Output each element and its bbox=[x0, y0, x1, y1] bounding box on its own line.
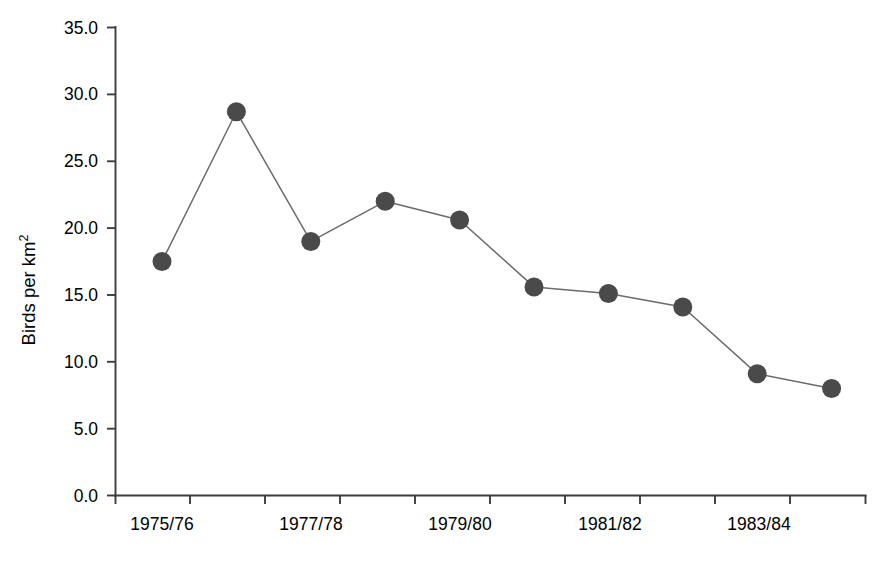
y-tick-label: 30.0 bbox=[64, 84, 98, 104]
y-tick-label: 15.0 bbox=[64, 285, 98, 305]
y-tick-label: 10.0 bbox=[64, 352, 98, 372]
x-axis-tick-labels: 1975/76 1977/78 1979/80 1981/82 1983/84 bbox=[130, 514, 791, 534]
y-axis-title-text: Birds per km bbox=[18, 242, 39, 346]
data-point bbox=[227, 102, 246, 121]
data-point bbox=[301, 232, 320, 251]
data-point bbox=[153, 252, 172, 271]
data-point bbox=[525, 277, 544, 296]
x-tick-label: 1977/78 bbox=[279, 514, 342, 534]
data-point bbox=[450, 211, 469, 230]
chart-container: Birds per km2 35.0 30.0 25.0 20.0 15.0 1… bbox=[0, 0, 888, 564]
x-tick-label: 1979/80 bbox=[428, 514, 492, 534]
y-tick-label: 25.0 bbox=[64, 151, 98, 171]
data-point bbox=[822, 379, 841, 398]
data-point bbox=[673, 297, 692, 316]
data-point bbox=[376, 192, 395, 211]
y-tick-label: 5.0 bbox=[74, 419, 99, 439]
y-axis-tick-labels: 35.0 30.0 25.0 20.0 15.0 10.0 5.0 0.0 bbox=[64, 18, 98, 506]
y-axis-title-superscript: 2 bbox=[17, 235, 31, 242]
data-point bbox=[599, 284, 618, 303]
y-tick-label: 20.0 bbox=[64, 218, 98, 238]
x-tick-label: 1983/84 bbox=[727, 514, 791, 534]
x-tick-label: 1975/76 bbox=[130, 514, 193, 534]
x-tick-label: 1981/82 bbox=[578, 514, 641, 534]
data-point bbox=[748, 364, 767, 383]
y-tick-label: 35.0 bbox=[64, 18, 98, 38]
y-axis-title: Birds per km2 bbox=[17, 235, 39, 346]
y-tick-label: 0.0 bbox=[74, 486, 99, 506]
line-chart: Birds per km2 35.0 30.0 25.0 20.0 15.0 1… bbox=[0, 0, 888, 564]
series-line bbox=[162, 112, 832, 389]
